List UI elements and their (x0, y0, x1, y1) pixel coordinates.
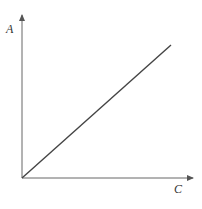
x-axis-label: C (174, 182, 182, 197)
data-line (22, 45, 171, 178)
y-axis-label: A (6, 22, 13, 37)
chart-plot (0, 0, 202, 209)
chart-canvas: A C (0, 0, 202, 209)
